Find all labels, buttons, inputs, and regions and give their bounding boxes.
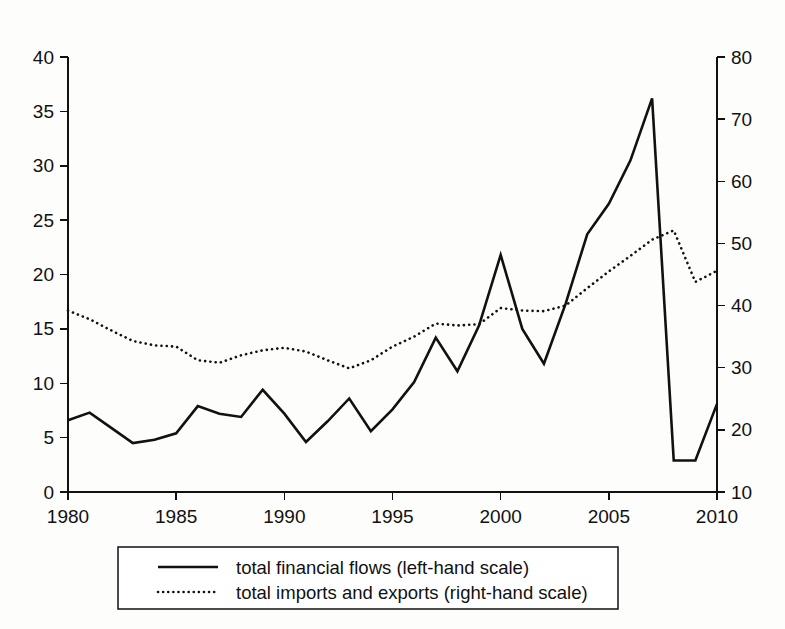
left-tick-label-35: 35 <box>33 101 54 122</box>
chart-page: 0510152025303540 1020304050607080 198019… <box>0 0 785 629</box>
series-group <box>68 98 717 460</box>
left-tick-label-40: 40 <box>33 47 54 68</box>
right-tick-label-50: 50 <box>731 233 752 254</box>
legend-label-total-imports-and-exports: total imports and exports (right-hand sc… <box>236 582 588 603</box>
x-tick-label-1985: 1985 <box>155 506 197 527</box>
x-tick-label-1980: 1980 <box>47 506 89 527</box>
chart-legend: total financial flows (left-hand scale) … <box>118 547 618 609</box>
right-tick-label-30: 30 <box>731 357 752 378</box>
series-total-imports-and-exports <box>68 230 717 368</box>
right-tick-label-20: 20 <box>731 419 752 440</box>
dual-axis-line-chart: 0510152025303540 1020304050607080 198019… <box>0 0 785 629</box>
axes-group <box>68 57 717 492</box>
x-axis-ticks: 1980198519901995200020052010 <box>47 492 738 527</box>
x-tick-label-1990: 1990 <box>263 506 305 527</box>
legend-label-total-financial-flows: total financial flows (left-hand scale) <box>236 557 529 578</box>
left-tick-label-0: 0 <box>43 482 54 503</box>
x-tick-label-2010: 2010 <box>696 506 738 527</box>
right-axis-ticks: 1020304050607080 <box>717 47 752 503</box>
right-tick-label-60: 60 <box>731 171 752 192</box>
left-tick-label-20: 20 <box>33 264 54 285</box>
right-tick-label-70: 70 <box>731 109 752 130</box>
left-tick-label-15: 15 <box>33 318 54 339</box>
series-total-financial-flows <box>68 98 717 460</box>
x-tick-label-2000: 2000 <box>480 506 522 527</box>
right-tick-label-40: 40 <box>731 295 752 316</box>
x-tick-label-2005: 2005 <box>588 506 630 527</box>
x-tick-label-1995: 1995 <box>371 506 413 527</box>
left-tick-label-30: 30 <box>33 155 54 176</box>
right-tick-label-10: 10 <box>731 482 752 503</box>
left-tick-label-10: 10 <box>33 373 54 394</box>
right-tick-label-80: 80 <box>731 47 752 68</box>
left-tick-label-5: 5 <box>43 427 54 448</box>
left-tick-label-25: 25 <box>33 210 54 231</box>
left-axis-ticks: 0510152025303540 <box>33 47 68 503</box>
